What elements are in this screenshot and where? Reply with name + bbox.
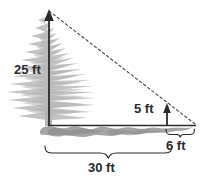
- label-post-height: 5 ft: [134, 101, 154, 116]
- brace-total-distance: [45, 146, 172, 158]
- label-post-distance: 6 ft: [166, 138, 186, 153]
- label-tree-height: 25 ft: [14, 62, 41, 77]
- diagram-canvas: 25 ft 5 ft 6 ft 30 ft: [0, 0, 204, 182]
- post-height-arrow: [163, 103, 171, 126]
- line-of-sight-dashed: [49, 11, 195, 124]
- ground-shadow-graphic: [40, 126, 193, 137]
- similar-triangles-figure: 25 ft 5 ft 6 ft 30 ft: [0, 0, 204, 182]
- label-total-distance: 30 ft: [88, 160, 115, 175]
